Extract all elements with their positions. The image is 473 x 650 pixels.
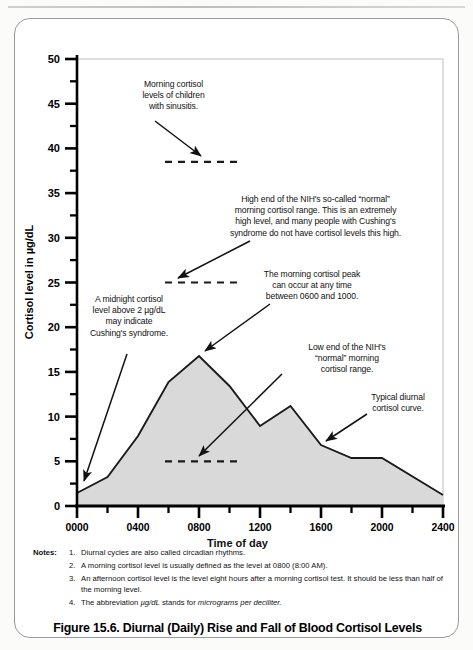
annotation-line: levels of children — [111, 90, 236, 101]
annotation-line: “normal” morning — [277, 353, 417, 364]
note-item: 4. The abbreviation µg/dL stands for mic… — [69, 597, 445, 608]
annotation-line: cortisol curve. — [345, 403, 451, 414]
y-tick-label: 30 — [48, 232, 60, 244]
annotation-line: can occur at any time — [237, 280, 387, 291]
x-tick-label: 1200 — [248, 522, 271, 533]
annotation-line: morning cortisol range. This is an extre… — [167, 205, 464, 216]
leader-sinusitis — [155, 121, 201, 156]
note-text: The abbreviation µg/dL stands for microg… — [81, 597, 445, 608]
annotation-line: with sinusitis. — [111, 101, 236, 112]
annotation-nih-low-end: Low end of the NIH's “normal” morning co… — [277, 342, 417, 376]
annotation-line: cortisol range. — [277, 364, 417, 375]
notes-label: Notes: — [33, 547, 69, 558]
leader-typical — [326, 414, 367, 441]
note-item: 1. Diurnal cycles are also called circad… — [69, 547, 445, 558]
y-tick-label: 35 — [48, 187, 60, 199]
x-tick-label: 0400 — [126, 522, 149, 533]
note-text-before: The abbreviation — [81, 598, 140, 607]
annotation-line: High end of the NIH's so-called “normal” — [167, 194, 464, 205]
annotation-morning-peak: The morning cortisol peak can occur at a… — [237, 269, 387, 303]
cortisol-area-fill — [77, 356, 443, 506]
note-text: An afternoon cortisol level is the level… — [81, 573, 445, 596]
chart-plot-area: 50 45 40 35 30 25 20 15 10 5 0 Cortisol … — [15, 19, 460, 539]
annotation-line: Typical diurnal — [345, 392, 451, 403]
annotation-line: between 0600 and 1000. — [237, 291, 387, 302]
annotation-line: A midnight cortisol — [59, 294, 199, 305]
figure-caption: Figure 15.6. Diurnal (Daily) Rise and Fa… — [15, 621, 460, 635]
x-axis-major-ticks — [77, 506, 443, 518]
figure-card: 50 45 40 35 30 25 20 15 10 5 0 Cortisol … — [14, 18, 459, 638]
y-tick-label: 15 — [48, 366, 60, 378]
annotation-line: Morning cortisol — [111, 79, 236, 90]
y-tick-label: 25 — [48, 277, 60, 289]
note-item: 2. A morning cortisol level is usually d… — [69, 560, 445, 571]
annotation-line: Cushing's syndrome. — [59, 328, 199, 339]
note-number: 4. — [69, 597, 81, 608]
y-tick-label: 10 — [48, 411, 60, 423]
y-tick-label: 5 — [54, 455, 60, 467]
annotation-nih-high-end: High end of the NIH's so-called “normal”… — [167, 194, 464, 239]
annotation-line: syndrome do not have cortisol levels thi… — [167, 228, 464, 239]
y-axis-tick-labels: 50 45 40 35 30 25 20 15 10 5 0 — [48, 53, 60, 512]
x-tick-label: 1600 — [309, 522, 332, 533]
note-text: Diurnal cycles are also called circadian… — [81, 547, 445, 558]
annotation-sinusitis: Morning cortisol levels of children with… — [111, 79, 236, 113]
notes-list: 1. Diurnal cycles are also called circad… — [69, 547, 445, 610]
y-tick-label: 50 — [48, 53, 60, 65]
x-axis-tick-labels: 0000 0400 0800 1200 1600 2000 2400 — [65, 522, 454, 533]
annotation-line: high level, and many people with Cushing… — [167, 216, 464, 227]
x-tick-label: 2000 — [370, 522, 393, 533]
annotation-line: Low end of the NIH's — [277, 342, 417, 353]
leader-peak — [205, 304, 270, 351]
note-text-italic-expansion: micrograms per deciliter. — [198, 598, 282, 607]
y-tick-label: 0 — [54, 500, 60, 512]
note-item: 3. An afternoon cortisol level is the le… — [69, 573, 445, 596]
x-tick-label: 2400 — [431, 522, 454, 533]
note-number: 2. — [69, 560, 81, 571]
y-tick-label: 45 — [48, 98, 60, 110]
y-axis-title: Cortisol level in µg/dL — [23, 224, 35, 339]
annotation-typical-curve: Typical diurnal cortisol curve. — [345, 392, 451, 414]
note-text-italic-unit: µg/dL — [140, 598, 159, 607]
annotation-line: level above 2 µg/dL — [59, 305, 199, 316]
annotation-midnight: A midnight cortisol level above 2 µg/dL … — [59, 294, 199, 339]
note-text: A morning cortisol level is usually defi… — [81, 560, 445, 571]
annotation-line: The morning cortisol peak — [237, 269, 387, 280]
x-tick-label: 0800 — [187, 522, 210, 533]
note-text-middle: stands for — [160, 598, 198, 607]
note-number: 1. — [69, 547, 81, 558]
note-number: 3. — [69, 573, 81, 596]
x-tick-label: 0000 — [65, 522, 88, 533]
top-rule-divider — [8, 6, 465, 8]
annotation-line: may indicate — [59, 316, 199, 327]
y-tick-label: 40 — [48, 142, 60, 154]
page-background: 50 45 40 35 30 25 20 15 10 5 0 Cortisol … — [0, 0, 473, 650]
notes-block: Notes: 1. Diurnal cycles are also called… — [33, 547, 445, 610]
